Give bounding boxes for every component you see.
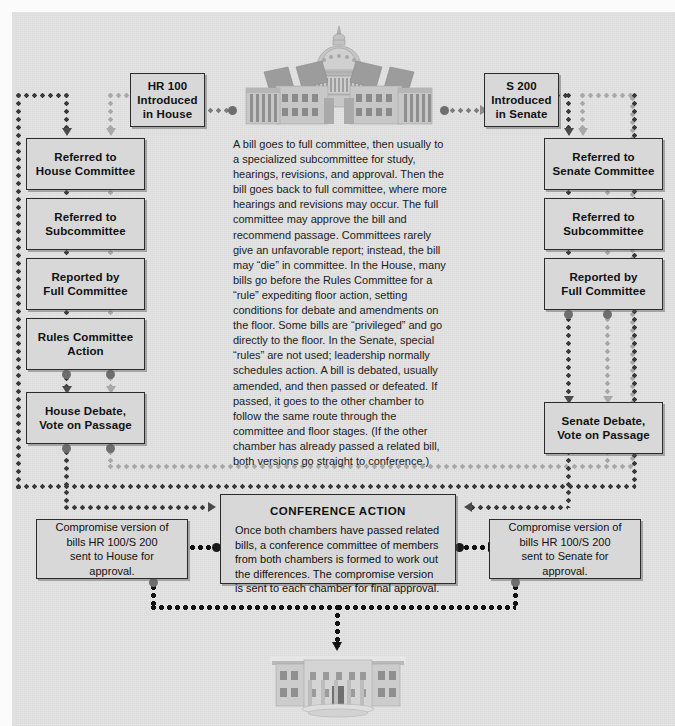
hr100-line3: in House xyxy=(143,107,192,121)
senate-step-0-line1: Referred to xyxy=(572,150,634,164)
terminal-dot-rules-bottom-dark xyxy=(62,370,71,379)
terminal-dot-conference-right xyxy=(455,543,464,552)
compromise-senate-line2: bills HR 100/S 200 xyxy=(519,535,610,550)
connector-bottom-bus-left xyxy=(151,605,337,610)
terminal-dot-compromise-house-bottom xyxy=(149,578,158,587)
box-house-reported-by-full-committee[interactable]: Reported by Full Committee xyxy=(26,258,145,310)
terminal-dot-senate-capitol xyxy=(440,106,449,115)
connector-house-debate-down xyxy=(64,450,69,508)
connector-cross-belt-dark xyxy=(16,484,636,489)
connector-senate-reported-to-debate-dark xyxy=(566,317,571,399)
arrowhead-into-compromise-house-row xyxy=(208,502,216,512)
senate-step-1-line1: Referred to xyxy=(572,210,634,224)
house-step-2-line1: Reported by xyxy=(51,270,119,284)
connector-senate-to-compromise-senate xyxy=(470,505,568,510)
arrowhead-into-compromise-senate-row xyxy=(464,502,472,512)
arrowhead-into-white-house xyxy=(332,642,342,651)
compromise-senate-line1: Compromise version of xyxy=(508,520,621,535)
box-house-debate-vote-on-passage[interactable]: House Debate, Vote on Passage xyxy=(26,392,145,444)
box-senate-referred-to-subcommittee[interactable]: Referred to Subcommittee xyxy=(544,198,663,250)
compromise-house-line1: Compromise version of xyxy=(55,520,168,535)
connector-bottom-bus-to-white-house xyxy=(335,605,340,647)
compromise-senate-line3: sent to Senate for approval. xyxy=(499,549,631,578)
connector-house-to-compromise-house xyxy=(64,505,212,510)
box-senate-reported-by-full-committee[interactable]: Reported by Full Committee xyxy=(544,258,663,310)
white-house-illustration xyxy=(268,648,408,720)
explanatory-paragraph: A bill goes to full committee, then usua… xyxy=(233,137,448,469)
connector-hr100-to-house-committee-v xyxy=(108,93,113,130)
house-step-3-line2: Action xyxy=(67,344,103,358)
arrowhead-house-outer-into-committee xyxy=(62,128,72,136)
connector-compromise-house-down xyxy=(151,585,156,607)
house-step-2-line2: Full Committee xyxy=(43,284,127,298)
house-step-0-line1: Referred to xyxy=(54,150,116,164)
box-hr100-introduced-in-house[interactable]: HR 100 Introduced in House xyxy=(130,73,205,127)
box-s200-introduced-in-senate[interactable]: S 200 Introduced in Senate xyxy=(484,73,559,127)
house-step-1-line1: Referred to xyxy=(54,210,116,224)
terminal-dot-house-debate-bottom-dark xyxy=(62,444,71,453)
house-step-3-line1: Rules Committee xyxy=(38,330,133,344)
arrowhead-s200-into-senate-committee xyxy=(564,128,574,136)
house-step-0-line2: House Committee xyxy=(36,164,135,178)
terminal-dot-rules-bottom-light xyxy=(106,370,115,379)
s200-line3: in Senate xyxy=(495,107,547,121)
hr100-line1: HR 100 xyxy=(148,79,188,93)
connector-s200-to-senate-committee-v xyxy=(566,93,571,130)
box-compromise-version-senate[interactable]: Compromise version of bills HR 100/S 200… xyxy=(489,519,641,579)
connector-senate-outer-top-light xyxy=(580,93,632,98)
conference-action-body: Once both chambers have passed related b… xyxy=(235,523,441,596)
hr100-line2: Introduced xyxy=(137,93,197,107)
box-house-referred-to-subcommittee[interactable]: Referred to Subcommittee xyxy=(26,198,145,250)
terminal-dot-compromise-senate-bottom xyxy=(511,578,520,587)
arrowhead-senate-outer-light xyxy=(578,128,588,136)
box-referred-to-senate-committee[interactable]: Referred to Senate Committee xyxy=(544,138,663,190)
house-step-4-line2: Vote on Passage xyxy=(39,418,132,432)
connector-house-outer-top xyxy=(16,93,68,98)
compromise-house-line2: bills HR 100/S 200 xyxy=(66,535,157,550)
senate-step-2-line2: Full Committee xyxy=(561,284,645,298)
white-house-icon xyxy=(268,648,408,720)
connector-senate-debate-down xyxy=(566,450,571,508)
senate-step-0-line2: Senate Committee xyxy=(553,164,655,178)
s200-line2: Introduced xyxy=(491,93,551,107)
connector-house-outer-left xyxy=(16,93,21,489)
s200-line1: S 200 xyxy=(506,79,537,93)
senate-step-3-line2: Vote on Passage xyxy=(557,428,650,442)
conference-action-title: CONFERENCE ACTION xyxy=(235,505,441,517)
senate-step-3-line1: Senate Debate, xyxy=(562,414,646,428)
connector-bottom-bus-right xyxy=(337,605,516,610)
connector-compromise-senate-down xyxy=(513,585,518,607)
terminal-dot-senate-reported-bottom-light xyxy=(603,310,612,319)
terminal-dot-house-debate-bottom-light xyxy=(106,444,115,453)
connector-senate-outer-down-light xyxy=(580,93,585,130)
connector-senate-reported-to-debate-light xyxy=(605,317,610,399)
diagram-canvas: HR 100 Introduced in House Referred to H… xyxy=(0,0,675,726)
top-margin xyxy=(0,0,675,12)
terminal-dot-hr-capitol xyxy=(228,106,237,115)
connector-house-outer-down-into-committee xyxy=(64,93,69,130)
capitol-building-illustration xyxy=(236,20,442,130)
terminal-dot-senate-reported-bottom-dark xyxy=(564,310,573,319)
left-margin xyxy=(0,0,12,726)
senate-step-2-line1: Reported by xyxy=(569,270,637,284)
arrowhead-hr100-into-house-committee xyxy=(106,128,116,136)
compromise-house-line3: sent to House for approval. xyxy=(46,549,178,578)
house-step-4-line1: House Debate, xyxy=(45,404,126,418)
capitol-icon xyxy=(236,20,442,130)
house-step-1-line2: Subcommittee xyxy=(45,224,125,238)
box-senate-debate-vote-on-passage[interactable]: Senate Debate, Vote on Passage xyxy=(544,402,663,454)
box-rules-committee-action[interactable]: Rules Committee Action xyxy=(26,318,145,370)
box-conference-action[interactable]: CONFERENCE ACTION Once both chambers hav… xyxy=(220,494,456,584)
box-compromise-version-house[interactable]: Compromise version of bills HR 100/S 200… xyxy=(36,519,188,579)
box-referred-to-house-committee[interactable]: Referred to House Committee xyxy=(26,138,145,190)
senate-step-1-line2: Subcommittee xyxy=(563,224,643,238)
